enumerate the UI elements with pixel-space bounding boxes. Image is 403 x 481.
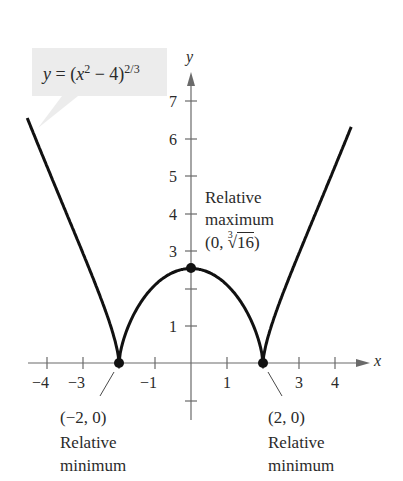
x-tick-label: −4 — [32, 375, 49, 391]
y-tick-label: 7 — [169, 94, 177, 110]
relative-min-right-desc-line2: minimum — [268, 456, 334, 475]
relative-min-left-desc-line2: minimum — [60, 456, 126, 475]
relative-min-point-left — [114, 358, 124, 368]
relative-min-point-right — [258, 358, 268, 368]
y-tick-label: 1 — [169, 319, 177, 335]
y-axis-arrow-icon — [187, 72, 195, 86]
x-tick-label: −3 — [68, 375, 85, 391]
relative-max-coord: (0, 3√16) — [205, 233, 260, 252]
y-tick-label: 5 — [169, 169, 177, 185]
x-tick-label: 1 — [223, 375, 231, 391]
relative-max-desc-line1: Relative — [205, 188, 262, 207]
cube-root: 3√16 — [228, 233, 254, 252]
relative-min-left-coord: (−2, 0) — [60, 408, 106, 427]
x-tick-label: 4 — [331, 375, 339, 391]
radicand: 16 — [237, 232, 254, 252]
y-axis-label: y — [186, 48, 193, 66]
leader-line-right-min — [268, 372, 282, 396]
relative-min-right-desc-line1: Relative — [268, 433, 325, 452]
x-axis-label: x — [374, 352, 381, 370]
y-tick-label: 3 — [169, 244, 177, 260]
relative-min-left-desc-line1: Relative — [60, 433, 117, 452]
y-tick-label: 6 — [169, 132, 177, 148]
y-tick-label: 4 — [169, 207, 177, 223]
relative-max-coord-prefix: (0, — [205, 233, 228, 252]
x-tick-label: 3 — [295, 375, 303, 391]
root-index: 3 — [228, 225, 233, 244]
relative-max-desc-line2: maximum — [205, 210, 274, 229]
equation-middle: − 4) — [90, 64, 124, 84]
x-tick-label: −1 — [140, 375, 157, 391]
leader-line-left-min — [100, 372, 114, 396]
equation-label: y = (x2 − 4)2/3 — [43, 62, 140, 85]
relative-max-point — [186, 263, 196, 273]
relative-max-coord-suffix: ) — [254, 233, 260, 252]
callout-pointer — [38, 96, 78, 128]
x-axis-arrow-icon — [356, 359, 370, 367]
relative-min-right-coord: (2, 0) — [268, 408, 305, 427]
equation-exponent: 2/3 — [124, 62, 139, 76]
